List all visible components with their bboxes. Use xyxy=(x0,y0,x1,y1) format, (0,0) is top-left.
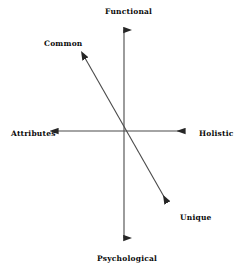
axis-label-unique: Unique xyxy=(180,213,212,222)
axis-label-common: Common xyxy=(44,39,83,48)
axis-label-psychological: Psychological xyxy=(97,254,157,263)
axis-label-functional: Functional xyxy=(105,7,152,16)
axis-label-holistic: Holistic xyxy=(199,129,234,138)
axis-label-attributes: Attributes xyxy=(11,129,56,138)
diagram-canvas: Functional Common Attributes Holistic Un… xyxy=(0,0,239,270)
axis-line-diagonal xyxy=(85,58,167,202)
